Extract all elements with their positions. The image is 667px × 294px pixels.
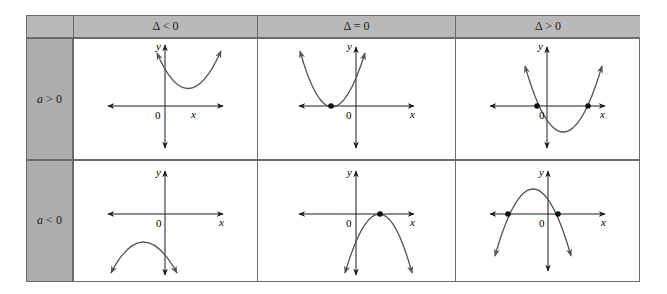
column-header-delta-zero: Δ = 0 bbox=[258, 16, 456, 39]
cell-a-pos-delta-zero bbox=[258, 39, 456, 160]
column-header-label: Δ > 0 bbox=[535, 19, 561, 34]
column-header-delta-negative: Δ < 0 bbox=[74, 16, 258, 39]
quadratic-discriminant-table: Δ < 0 Δ = 0 Δ > 0 a > 0 a < 0 bbox=[26, 15, 640, 282]
row-label-condition: < 0 bbox=[43, 213, 62, 228]
cell-a-neg-delta-zero bbox=[258, 160, 456, 281]
row-label-a-negative: a < 0 bbox=[27, 160, 74, 281]
cell-a-pos-delta-pos bbox=[456, 39, 640, 160]
corner-header bbox=[27, 16, 74, 39]
cell-a-pos-delta-neg bbox=[74, 39, 258, 160]
cell-a-neg-delta-pos bbox=[456, 160, 640, 281]
row-label-a-positive: a > 0 bbox=[27, 39, 74, 160]
cell-a-neg-delta-neg bbox=[74, 160, 258, 281]
column-header-delta-positive: Δ > 0 bbox=[456, 16, 640, 39]
column-header-label: Δ = 0 bbox=[344, 19, 370, 34]
row-divider bbox=[27, 159, 639, 161]
row-label-condition: > 0 bbox=[43, 92, 62, 107]
column-header-label: Δ < 0 bbox=[153, 19, 179, 34]
